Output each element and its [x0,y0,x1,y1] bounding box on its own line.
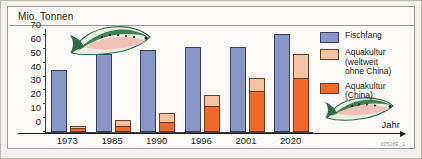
legend-swatch [320,83,339,94]
bar-group [274,29,309,132]
y-axis-tick-mark [43,34,46,35]
legend-swatch [320,32,339,43]
bar-segment-aquakultur-china [250,91,264,131]
x-axis-tick-label: 1985 [101,135,122,146]
bar-group [185,29,220,132]
y-axis-tick-mark [43,103,46,104]
bar-segment-aquakultur-welt [205,96,219,106]
chart-legend: FischfangAquakultur(weltweitohne China)A… [320,31,412,106]
bar-segment-aquakultur-welt [250,79,264,91]
bar-aquakultur-stack [293,54,309,132]
bar-fischfang [140,50,156,132]
bar-segment-aquakultur-china [71,128,85,131]
bar-aquakultur-stack [249,78,265,132]
legend-label: Fischfang [345,31,382,41]
legend-item: Aquakultur (China) [320,82,412,101]
y-axis-tick-label: 70 [30,18,46,29]
bar-aquakultur-stack [204,95,220,132]
x-axis-title: Jahr [382,119,400,130]
legend-item: Fischfang [320,31,412,43]
legend-item: Aquakultur(weltweitohne China) [320,48,412,77]
bar-aquakultur-stack [70,126,86,132]
x-axis-tick-label: 2020 [280,135,301,146]
bar-segment-aquakultur-china [294,78,308,131]
x-axis-tick-label: 1973 [57,135,78,146]
y-axis-tick-mark [43,131,46,132]
y-axis-tick-mark [43,89,46,90]
bar-fischfang [96,54,112,132]
y-axis-tick-mark [43,117,46,118]
x-axis-tick-label: 1996 [191,135,212,146]
bar-fischfang [51,70,67,132]
bar-aquakultur-stack [159,113,175,132]
fish-illustration-icon [68,23,154,57]
bar-fischfang [185,47,201,132]
bar-segment-aquakultur-china [116,126,130,131]
x-axis-tick-label: 1990 [146,135,167,146]
y-axis-tick-mark [43,48,46,49]
graphic-code: 10508E_1 [381,141,405,147]
bar-fischfang [274,34,290,132]
bar-segment-aquakultur-welt [160,114,174,122]
bar-segment-aquakultur-china [205,106,219,131]
legend-label: Aquakultur (China) [345,82,412,101]
bar-segment-aquakultur-welt [294,55,308,78]
bar-aquakultur-stack [115,120,131,132]
x-axis-labels: 197319851990199620012020 [45,135,313,149]
y-axis-tick-mark [43,62,46,63]
x-axis-tick-label: 2001 [235,135,256,146]
x-axis-arrow [18,133,405,134]
legend-label: Aquakultur(weltweitohne China) [345,48,391,77]
y-axis-tick-mark [43,76,46,77]
legend-swatch [320,49,339,60]
bar-segment-aquakultur-china [160,122,174,131]
chart-frame: Mio. Tonnen 010203040506070 197319851990… [0,0,422,159]
bar-fischfang [230,47,246,132]
chart-inner-panel: Mio. Tonnen 010203040506070 197319851990… [7,6,415,149]
bar-group [230,29,265,132]
